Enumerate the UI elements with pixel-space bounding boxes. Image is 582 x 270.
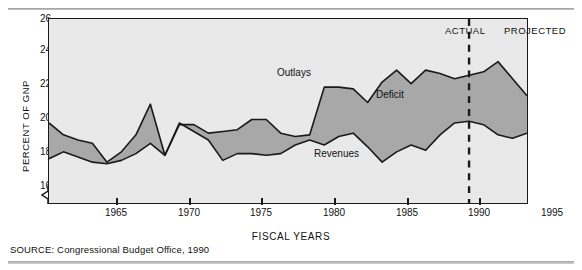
x-tick-label: 1990 <box>459 208 499 218</box>
revenues-label: Revenues <box>314 148 359 159</box>
outlays-label: Outlays <box>277 67 311 78</box>
plot-frame: Outlays Deficit Revenues ACTUAL PROJECTE… <box>48 18 528 204</box>
y-axis-title: PERCENT OF GNP <box>20 52 31 172</box>
top-rule <box>8 8 574 10</box>
x-tick-mark <box>116 198 118 205</box>
x-tick-label: 1965 <box>96 208 136 218</box>
source-note: SOURCE: Congressional Budget Office, 199… <box>10 244 209 255</box>
projected-label: PROJECTED <box>504 25 566 36</box>
bottom-rule <box>8 261 574 264</box>
area-chart <box>49 19 527 203</box>
actual-label: ACTUAL <box>445 25 485 36</box>
x-tick-label: 1980 <box>314 208 354 218</box>
x-tick-label: 1975 <box>241 208 281 218</box>
x-tick-label: 1985 <box>387 208 427 218</box>
x-tick-mark <box>261 198 263 205</box>
x-tick-mark <box>189 198 191 205</box>
x-tick-mark <box>479 198 481 205</box>
figure-root: 26 24 22 20 18 16 PERCENT OF GNP Outlays… <box>0 0 582 270</box>
x-tick-label: 1995 <box>532 208 572 218</box>
deficit-label: Deficit <box>376 89 404 100</box>
x-axis-title: FISCAL YEARS <box>0 231 582 242</box>
x-tick-label: 1970 <box>169 208 209 218</box>
x-tick-mark <box>334 198 336 205</box>
x-tick-mark <box>407 198 409 205</box>
